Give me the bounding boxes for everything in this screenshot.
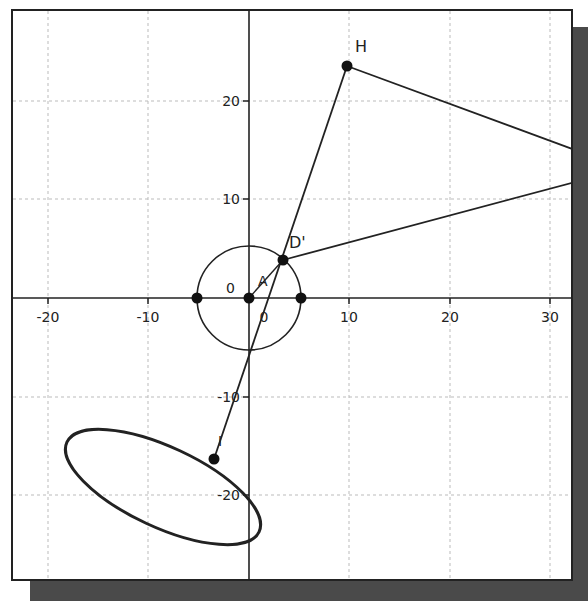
segment-h-right[interactable]: [347, 66, 575, 150]
x-tick-label: -10: [137, 309, 160, 325]
point-h[interactable]: [342, 61, 353, 72]
label-a: A: [258, 273, 268, 289]
point-a[interactable]: [244, 293, 255, 304]
y-tick-label: 20: [222, 93, 240, 109]
x-tick-label: 10: [340, 309, 358, 325]
y-tick-label-zero: 0: [226, 280, 235, 296]
x-tick-label: -20: [37, 309, 60, 325]
label-h: H: [355, 37, 367, 56]
y-tick-label: -20: [217, 487, 240, 503]
segment-dprime-right[interactable]: [283, 182, 575, 260]
point-circle-left[interactable]: [192, 293, 203, 304]
point-circle-right[interactable]: [296, 293, 307, 304]
point-i[interactable]: [209, 454, 220, 465]
x-tick-label: 20: [441, 309, 459, 325]
x-tick-label: 30: [541, 309, 559, 325]
ellipse[interactable]: [50, 406, 276, 568]
geometry-canvas[interactable]: -20 -10 0 10 20 30 20 10 0 -10 -20 H D' …: [0, 0, 588, 604]
y-tick-label: 10: [222, 191, 240, 207]
label-d-prime: D': [289, 233, 306, 252]
point-d-prime[interactable]: [278, 255, 289, 266]
label-i: I: [218, 433, 222, 449]
